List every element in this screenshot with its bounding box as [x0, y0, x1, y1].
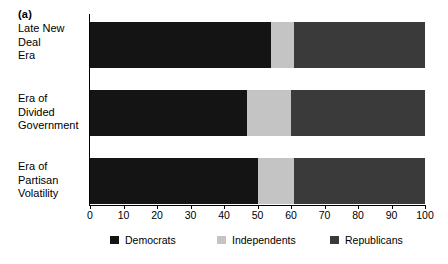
- bar-segment-independents: [258, 158, 295, 204]
- bar-row: [90, 158, 425, 204]
- bar-row: [90, 90, 425, 136]
- legend-label-democrats: Democrats: [125, 234, 176, 246]
- legend-label-republicans: Republicans: [345, 234, 403, 246]
- legend-swatch-democrats: [110, 236, 119, 244]
- bar-segment-democrats: [90, 158, 258, 204]
- x-axis-tick-label: 50: [243, 209, 273, 221]
- bar-segment-democrats: [90, 90, 247, 136]
- y-axis-category-label-0: Late New Deal Era: [18, 22, 84, 63]
- x-axis-tick-label: 40: [209, 209, 239, 221]
- x-axis-tick-label: 90: [377, 209, 407, 221]
- plot-area: [90, 14, 425, 206]
- bar-segment-independents: [271, 22, 294, 68]
- x-axis-tick-label: 20: [142, 209, 172, 221]
- bar-row: [90, 22, 425, 68]
- x-axis-tick-label: 10: [109, 209, 139, 221]
- legend-swatch-independents: [217, 236, 226, 244]
- legend-item-independents: Independents: [217, 233, 296, 247]
- legend-swatch-republicans: [330, 236, 339, 244]
- y-axis-category-label-2: Era of Partisan Volatility: [18, 160, 84, 201]
- chart-figure: (a) Late New Deal Era Era of Divided Gov…: [0, 0, 448, 264]
- legend-item-republicans: Republicans: [330, 233, 403, 247]
- x-axis-tick-label: 70: [310, 209, 340, 221]
- y-axis-category-label-1-line-0: Era of Divided: [18, 92, 84, 119]
- x-axis-tick-label: 80: [343, 209, 373, 221]
- bar-segment-independents: [247, 90, 291, 136]
- x-axis-tick-label: 60: [276, 209, 306, 221]
- legend-item-democrats: Democrats: [110, 233, 176, 247]
- legend: Democrats Independents Republicans: [0, 233, 448, 249]
- y-axis-category-label-0-line-0: Late New Deal: [18, 22, 84, 49]
- bar-segment-democrats: [90, 22, 271, 68]
- y-axis-category-label-1: Era of Divided Government: [18, 92, 84, 133]
- x-axis-tick-label: 0: [75, 209, 105, 221]
- y-axis-category-label-2-line-0: Era of Partisan: [18, 160, 84, 187]
- panel-label: (a): [18, 8, 32, 21]
- bar-segment-republicans: [294, 158, 425, 204]
- y-axis-category-label-0-line-1: Era: [18, 49, 84, 63]
- bar-segment-republicans: [291, 90, 425, 136]
- x-axis-tick-label: 100: [410, 209, 440, 221]
- y-axis-category-label-2-line-1: Volatility: [18, 187, 84, 201]
- bar-segment-republicans: [294, 22, 425, 68]
- x-axis-tick-label: 30: [176, 209, 206, 221]
- y-axis-category-label-1-line-1: Government: [18, 119, 84, 133]
- legend-label-independents: Independents: [232, 234, 296, 246]
